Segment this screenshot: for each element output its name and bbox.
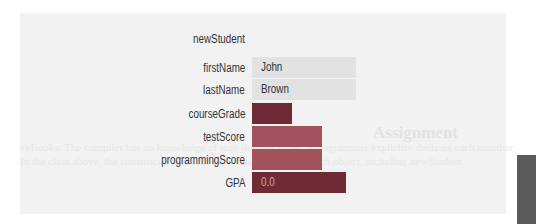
field-value: Brown	[261, 79, 289, 100]
field-row-firstName: firstName John	[0, 57, 400, 79]
field-row-testScore: testScore	[0, 126, 400, 148]
side-scroll-strip[interactable]	[517, 155, 536, 224]
field-row-programmingScore: programmingScore	[0, 149, 400, 171]
field-value-box: John	[252, 57, 356, 78]
field-label: courseGrade	[188, 107, 245, 121]
field-label: firstName	[203, 61, 245, 75]
field-value-box: 0.0	[252, 172, 346, 193]
stage: Assignment zyBooks: The compiler has no …	[0, 0, 536, 224]
field-value: John	[261, 57, 282, 78]
field-label: GPA	[225, 176, 245, 190]
field-row-GPA: GPA 0.0	[0, 172, 400, 194]
field-label: lastName	[203, 83, 245, 97]
field-value-box	[252, 149, 322, 170]
field-row-lastName: lastName Brown	[0, 79, 400, 101]
field-value-box	[252, 126, 322, 147]
field-value-box	[252, 103, 292, 124]
field-value: 0.0	[261, 172, 275, 193]
field-value-box: Brown	[252, 79, 356, 100]
field-row-courseGrade: courseGrade	[0, 103, 400, 125]
field-label: testScore	[203, 130, 245, 144]
field-label: programmingScore	[161, 153, 245, 167]
object-name: newStudent	[126, 32, 245, 46]
